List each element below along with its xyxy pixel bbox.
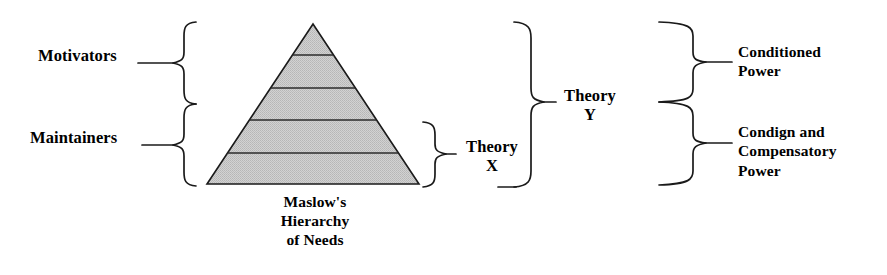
- maintainers-brace: [173, 104, 196, 186]
- maslow-pyramid: [185, 24, 441, 184]
- label-conditioned-power: Conditioned Power: [738, 42, 821, 81]
- condign-power-brace: [659, 102, 706, 185]
- conditioned-power-brace: [659, 22, 706, 102]
- label-theory-y: Theory Y: [557, 86, 623, 125]
- label-motivators: Motivators: [38, 47, 117, 65]
- pyramid-body: [207, 24, 419, 184]
- label-theory-x: Theory X: [459, 137, 525, 176]
- label-condign-compensatory-power: Condign and Compensatory Power: [738, 122, 837, 180]
- maslow-theory-power-diagram: Motivators Maintainers Maslow's Hierarch…: [0, 0, 887, 275]
- label-maslow-hierarchy-of-needs: Maslow's Hierarchy of Needs: [232, 193, 398, 250]
- label-maintainers: Maintainers: [30, 129, 117, 147]
- theory-x-brace: [423, 122, 446, 187]
- motivators-brace: [173, 22, 196, 104]
